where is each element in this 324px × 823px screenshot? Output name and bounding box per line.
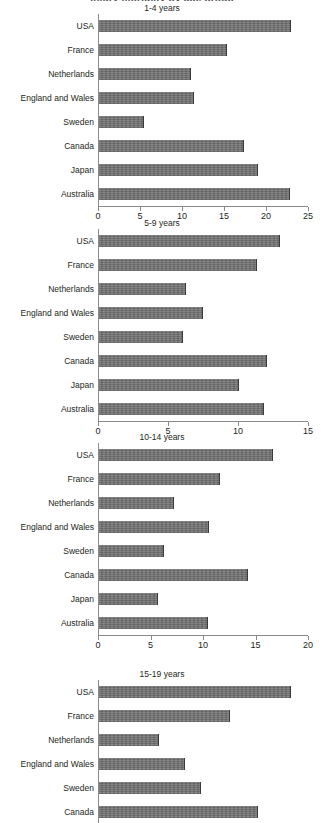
bar [99, 497, 174, 509]
bar-row: Sweden [0, 110, 324, 134]
bar [99, 521, 209, 533]
chart-title: 1-4 years [0, 2, 324, 14]
bar-row: Japan [0, 158, 324, 182]
category-label: France [0, 704, 94, 728]
plot-area: USAFranceNetherlandsEngland and WalesSwe… [0, 680, 324, 823]
bar [99, 473, 220, 485]
bar-row: France [0, 38, 324, 62]
bar-row: Australia [0, 397, 324, 421]
bar [99, 44, 227, 56]
category-label: USA [0, 14, 94, 38]
category-label: Sweden [0, 110, 94, 134]
category-label: England and Wales [0, 752, 94, 776]
category-label: Netherlands [0, 491, 94, 515]
bar-row: Australia [0, 182, 324, 206]
bar-row: Netherlands [0, 728, 324, 752]
bar [99, 403, 264, 415]
category-label: Netherlands [0, 728, 94, 752]
bar-row: Canada [0, 800, 324, 823]
category-label: France [0, 467, 94, 491]
chart-title: 10-14 years [0, 431, 324, 443]
category-label: Sweden [0, 776, 94, 800]
chart-panel: 10-14 yearsUSAFranceNetherlandsEngland a… [0, 431, 324, 655]
bar-row: Japan [0, 373, 324, 397]
figure-container: Injury mortality by age group 1-4 yearsU… [0, 0, 324, 823]
bar [99, 283, 186, 295]
bar-row: France [0, 253, 324, 277]
bar [99, 68, 191, 80]
category-label: England and Wales [0, 515, 94, 539]
bar-row: Canada [0, 134, 324, 158]
bar-row: England and Wales [0, 515, 324, 539]
category-label: Canada [0, 800, 94, 823]
bar-row: USA [0, 14, 324, 38]
bar [99, 545, 164, 557]
plot-area: USAFranceNetherlandsEngland and WalesSwe… [0, 443, 324, 655]
category-label: Australia [0, 611, 94, 635]
bar [99, 307, 203, 319]
plot-area: USAFranceNetherlandsEngland and WalesSwe… [0, 229, 324, 441]
chart-title: 15-19 years [0, 668, 324, 680]
category-label: France [0, 38, 94, 62]
bar-row: USA [0, 680, 324, 704]
x-axis-tick-label: 20 [293, 640, 323, 650]
category-label: Canada [0, 563, 94, 587]
bar [99, 617, 208, 629]
bar [99, 188, 290, 200]
bar-row: USA [0, 229, 324, 253]
bar [99, 331, 183, 343]
x-axis-tick-label: 5 [136, 640, 166, 650]
bar-row: Netherlands [0, 277, 324, 301]
x-axis-tick-label: 10 [188, 640, 218, 650]
category-label: England and Wales [0, 301, 94, 325]
category-label: Netherlands [0, 277, 94, 301]
bar [99, 259, 257, 271]
chart-panel: 1-4 yearsUSAFranceNetherlandsEngland and… [0, 2, 324, 226]
category-label: Canada [0, 349, 94, 373]
category-label: France [0, 253, 94, 277]
bar [99, 686, 291, 698]
plot-area: USAFranceNetherlandsEngland and WalesSwe… [0, 14, 324, 226]
bar-row: Sweden [0, 776, 324, 800]
bar [99, 92, 194, 104]
bar-row: Netherlands [0, 62, 324, 86]
bar [99, 355, 267, 367]
chart-title: 5-9 years [0, 217, 324, 229]
bar [99, 782, 201, 794]
x-axis-line [98, 206, 308, 207]
category-label: Sweden [0, 325, 94, 349]
bar-row: Canada [0, 563, 324, 587]
bar-row: Netherlands [0, 491, 324, 515]
category-label: Australia [0, 182, 94, 206]
bar-row: England and Wales [0, 752, 324, 776]
category-label: Japan [0, 373, 94, 397]
category-label: Australia [0, 397, 94, 421]
bar [99, 140, 244, 152]
category-label: Canada [0, 134, 94, 158]
bar-row: Canada [0, 349, 324, 373]
bar-row: Sweden [0, 539, 324, 563]
bar [99, 806, 258, 818]
bar-row: France [0, 704, 324, 728]
category-label: USA [0, 443, 94, 467]
x-axis-tick-label: 0 [83, 640, 113, 650]
bar-row: France [0, 467, 324, 491]
x-axis-line [98, 421, 308, 422]
bar-row: Australia [0, 611, 324, 635]
bar [99, 235, 280, 247]
bar [99, 449, 273, 461]
category-label: USA [0, 229, 94, 253]
bar [99, 569, 248, 581]
category-label: Netherlands [0, 62, 94, 86]
category-label: Japan [0, 587, 94, 611]
bar [99, 116, 144, 128]
bar-row: England and Wales [0, 301, 324, 325]
bar-row: USA [0, 443, 324, 467]
bar-row: Sweden [0, 325, 324, 349]
chart-panel: 15-19 yearsUSAFranceNetherlandsEngland a… [0, 668, 324, 823]
bar-row: Japan [0, 587, 324, 611]
bar [99, 593, 158, 605]
x-axis-tick-label: 15 [241, 640, 271, 650]
category-label: USA [0, 680, 94, 704]
bar [99, 758, 185, 770]
